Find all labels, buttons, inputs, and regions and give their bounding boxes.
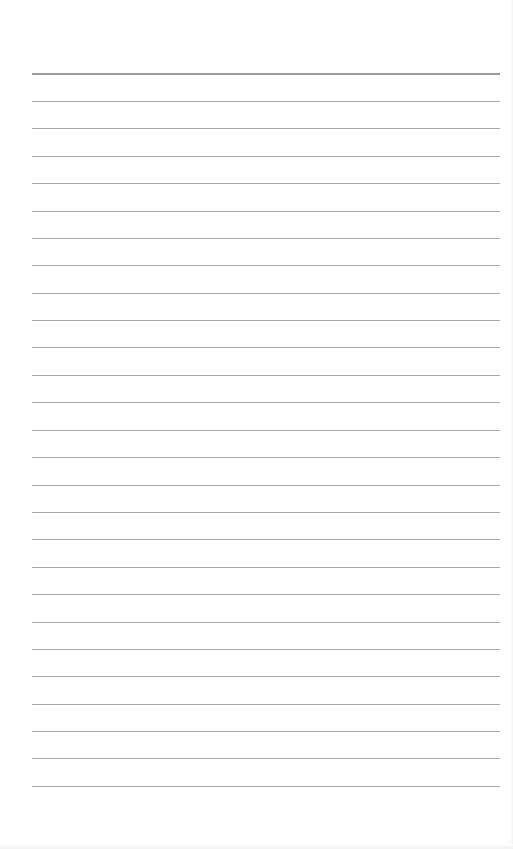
ruled-line (32, 594, 500, 595)
ruled-line (32, 512, 500, 513)
ruled-line (32, 156, 500, 157)
ruled-line (32, 704, 500, 705)
ruled-line (32, 758, 500, 759)
ruled-line (32, 375, 500, 376)
ruled-line (32, 649, 500, 650)
ruled-line (32, 430, 500, 431)
ruled-line (32, 539, 500, 540)
ruled-line (32, 128, 500, 129)
ruled-line (32, 238, 500, 239)
ruled-line (32, 622, 500, 623)
ruled-line (32, 73, 500, 75)
ruled-line (32, 347, 500, 348)
ruled-line (32, 457, 500, 458)
ruled-line (32, 183, 500, 184)
ruled-line (32, 211, 500, 212)
ruled-line (32, 402, 500, 403)
ruled-line (32, 320, 500, 321)
ruled-lines (0, 0, 513, 849)
ruled-line (32, 731, 500, 732)
ruled-line (32, 265, 500, 266)
page-bottom-edge (0, 844, 513, 849)
ruled-line (32, 101, 500, 102)
ruled-line (32, 293, 500, 294)
ruled-line (32, 676, 500, 677)
ruled-line (32, 485, 500, 486)
ruled-line (32, 567, 500, 568)
lined-paper-page (0, 0, 513, 849)
ruled-line (32, 786, 500, 787)
